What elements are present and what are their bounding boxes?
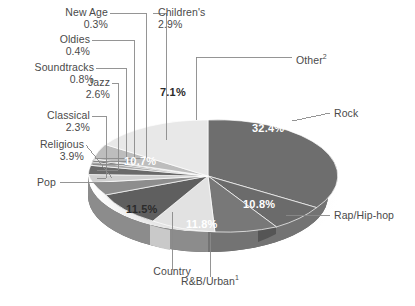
value-rock: 32.4% [252, 122, 284, 134]
label-jazz-pct: 2.6% [62, 88, 110, 100]
label-soundtracks-name: Soundtracks [35, 61, 94, 73]
label-rnb-urban: R&B/Urban1 [168, 272, 252, 287]
label-classical-pct: 2.3% [8, 121, 90, 133]
label-religious: Religious 3.9% [4, 138, 84, 162]
label-childrens: Children's 2.9% [158, 6, 205, 30]
label-other-footnote-ref: 2 [323, 53, 327, 60]
label-rap-hip-hop: Rap/Hip-hop [334, 209, 394, 221]
label-oldies: Oldies 0.4% [10, 33, 90, 57]
value-other: 7.1% [160, 86, 186, 98]
label-oldies-pct: 0.4% [10, 45, 90, 57]
value-country: 11.5% [126, 203, 158, 215]
label-childrens-pct: 2.9% [158, 18, 205, 30]
pie-chart-figure: New Age 0.3% Oldies 0.4% Soundtracks 0.8… [0, 0, 415, 306]
footnote-text [6, 298, 409, 306]
label-rnb-urban-footnote-ref: 1 [235, 274, 239, 281]
value-rnb: 11.8% [186, 218, 218, 230]
label-religious-pct: 3.9% [4, 150, 84, 162]
label-other: Other2 [296, 51, 327, 66]
label-rnb-urban-name: R&B/Urban [181, 275, 235, 287]
label-oldies-name: Oldies [60, 33, 90, 45]
label-pop: Pop [12, 176, 56, 188]
label-rock: Rock [334, 107, 358, 119]
value-pop: 10.7% [124, 155, 156, 167]
value-rap: 10.8% [243, 198, 275, 210]
label-classical-name: Classical [47, 109, 90, 121]
label-religious-name: Religious [40, 138, 84, 150]
label-other-name: Other [296, 54, 323, 66]
label-rock-name: Rock [334, 107, 358, 119]
label-childrens-name: Children's [158, 6, 205, 18]
label-classical: Classical 2.3% [8, 109, 90, 133]
label-new-age: New Age 0.3% [20, 6, 108, 30]
label-pop-name: Pop [37, 176, 56, 188]
label-jazz: Jazz 2.6% [62, 76, 110, 100]
label-new-age-pct: 0.3% [20, 18, 108, 30]
label-rap-hip-hop-name: Rap/Hip-hop [334, 209, 394, 221]
label-new-age-name: New Age [65, 6, 108, 18]
label-jazz-name: Jazz [88, 76, 110, 88]
